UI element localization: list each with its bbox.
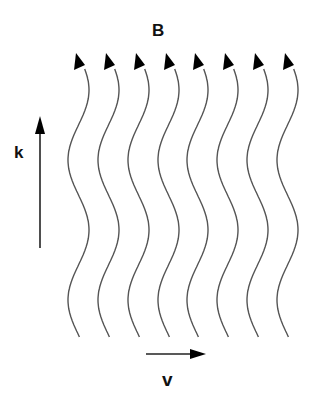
velocity-label-v: v bbox=[162, 369, 173, 391]
wave-arrowhead-icon bbox=[253, 53, 264, 70]
diagram-canvas bbox=[0, 0, 313, 404]
wave-line bbox=[98, 69, 119, 337]
wavevector-label-k: k bbox=[14, 143, 23, 163]
field-label-b: B bbox=[152, 21, 164, 41]
wave-line bbox=[187, 69, 208, 337]
v-arrowhead-icon bbox=[190, 349, 206, 359]
wave-line bbox=[247, 69, 268, 337]
wave-lines bbox=[68, 53, 298, 337]
wave-arrowhead-icon bbox=[223, 53, 234, 70]
wave-line bbox=[158, 69, 179, 337]
wave-line bbox=[277, 69, 298, 337]
wave-line bbox=[68, 69, 89, 337]
wave-arrowhead-icon bbox=[104, 53, 115, 70]
wave-line bbox=[217, 69, 238, 337]
wave-line bbox=[128, 69, 149, 337]
wave-arrowhead-icon bbox=[193, 53, 204, 70]
k-arrowhead-icon bbox=[35, 116, 45, 134]
wave-arrowhead-icon bbox=[164, 53, 175, 70]
wave-arrowhead-icon bbox=[134, 53, 145, 70]
wave-arrowhead-icon bbox=[283, 53, 294, 70]
wave-arrowhead-icon bbox=[74, 53, 85, 70]
